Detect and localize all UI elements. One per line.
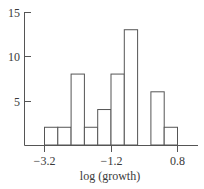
x-tick-label: −3.2 (34, 154, 56, 168)
y-axis-ticks: 51015 (8, 6, 31, 109)
histogram-bar (98, 110, 111, 145)
histogram-bar (151, 92, 164, 145)
histogram-bar (58, 127, 71, 145)
histogram-bar (111, 74, 124, 145)
histogram-bar (45, 127, 58, 145)
x-axis-label: log (growth) (80, 169, 140, 183)
histogram-bar (71, 74, 84, 145)
histogram-bar (164, 127, 177, 145)
histogram-chart: 51015 −3.2−1.20.8 log (growth) (0, 0, 204, 189)
y-tick-label: 5 (14, 95, 20, 109)
histogram-bar (84, 127, 97, 145)
histogram-bar (124, 30, 137, 145)
y-tick-label: 10 (8, 50, 20, 64)
x-axis-ticks: −3.2−1.20.8 (34, 145, 185, 168)
histogram-bars (45, 30, 178, 145)
x-tick-label: 0.8 (170, 154, 185, 168)
y-tick-label: 15 (8, 6, 20, 20)
x-tick-label: −1.2 (101, 154, 123, 168)
